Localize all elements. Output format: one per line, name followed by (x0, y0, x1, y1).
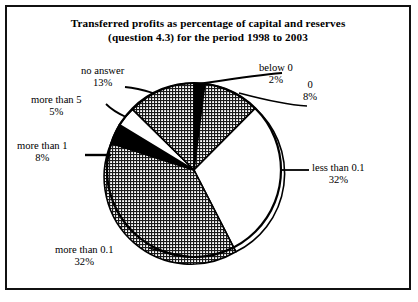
label-0: 0 8% (303, 79, 317, 104)
label-below-0: below 0 2% (259, 62, 293, 87)
label-0-pct: 8% (303, 91, 317, 103)
label-no-answer-pct: 13% (81, 77, 124, 89)
leader-line-no-answer (125, 87, 153, 93)
label-no-answer: no answer 13% (81, 65, 124, 90)
label-below-0-pct: 2% (259, 74, 293, 86)
label-more-than-1-pct: 8% (17, 152, 68, 164)
label-more-than-5-name: more than 5 (31, 94, 82, 105)
label-more-than-0-1: more than 0.1 32% (55, 244, 114, 269)
label-more-than-5-pct: 5% (31, 106, 82, 118)
label-more-than-0-1-name: more than 0.1 (55, 244, 114, 255)
label-0-name: 0 (307, 79, 312, 90)
label-less-than-0-1-pct: 32% (312, 174, 365, 186)
chart-figure: Transferred profits as percentage of cap… (5, 5, 411, 290)
label-more-than-1-name: more than 1 (17, 140, 68, 151)
label-more-than-0-1-pct: 32% (55, 256, 114, 268)
label-below-0-name: below 0 (259, 62, 293, 73)
leader-line-more-than-5 (106, 104, 126, 117)
label-more-than-1: more than 1 8% (17, 140, 68, 165)
label-more-than-5: more than 5 5% (31, 94, 82, 119)
label-less-than-0-1-name: less than 0.1 (312, 162, 365, 173)
label-less-than-0-1: less than 0.1 32% (312, 162, 365, 187)
label-no-answer-name: no answer (81, 65, 124, 76)
